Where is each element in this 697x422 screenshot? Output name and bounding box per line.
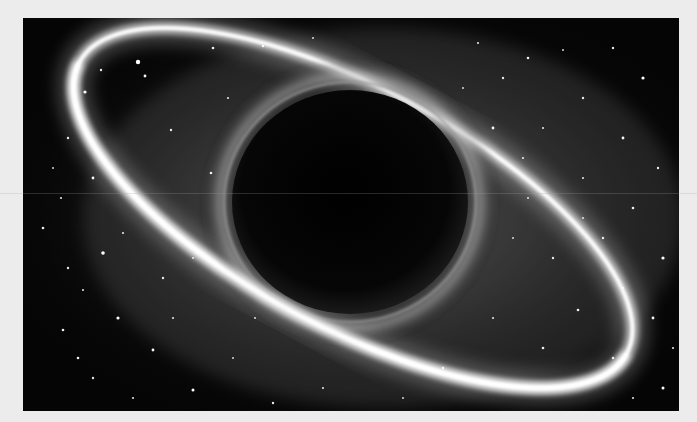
star (577, 309, 580, 312)
star (612, 357, 614, 359)
star (132, 397, 134, 399)
star (672, 347, 674, 349)
star (582, 97, 584, 99)
star (632, 397, 634, 399)
star (632, 207, 635, 210)
star (402, 397, 404, 399)
star (67, 137, 69, 139)
star (272, 402, 274, 404)
star (582, 217, 584, 219)
star (42, 227, 45, 230)
star (477, 42, 479, 44)
star (492, 317, 494, 319)
black-hole-image (23, 18, 679, 411)
star (232, 357, 234, 359)
space-scene (23, 18, 679, 411)
star (172, 317, 174, 319)
star (527, 57, 530, 60)
star (622, 287, 624, 289)
star (67, 267, 69, 269)
star (612, 47, 614, 49)
star (122, 232, 124, 234)
star (462, 87, 464, 89)
star (562, 49, 564, 51)
star (92, 177, 95, 180)
star (262, 45, 264, 47)
star (62, 329, 65, 332)
star (83, 90, 86, 93)
star (542, 127, 544, 129)
star (82, 289, 84, 291)
star (170, 129, 172, 131)
star (312, 37, 314, 39)
star (254, 317, 256, 319)
star (210, 172, 213, 175)
star (661, 256, 664, 259)
star (192, 389, 195, 392)
star (582, 177, 584, 179)
star (602, 237, 604, 239)
star (492, 127, 495, 130)
star (542, 347, 545, 350)
star (100, 69, 102, 71)
star (512, 237, 514, 239)
star (52, 167, 54, 169)
star (101, 251, 105, 255)
star (136, 60, 140, 64)
star (60, 197, 62, 199)
star (116, 316, 119, 319)
star (641, 76, 644, 79)
star (442, 367, 444, 369)
scan-line (0, 193, 697, 194)
star (662, 387, 665, 390)
star (527, 197, 529, 199)
star (552, 257, 554, 259)
star (322, 387, 324, 389)
star (144, 75, 147, 78)
star (162, 277, 164, 279)
star (212, 47, 215, 50)
star (522, 157, 524, 159)
star (77, 357, 80, 360)
star (502, 77, 504, 79)
star (192, 257, 194, 259)
star (152, 349, 155, 352)
star (657, 167, 659, 169)
star (227, 97, 229, 99)
star (92, 377, 94, 379)
star (622, 137, 625, 140)
star (652, 317, 655, 320)
event-horizon (232, 90, 468, 314)
